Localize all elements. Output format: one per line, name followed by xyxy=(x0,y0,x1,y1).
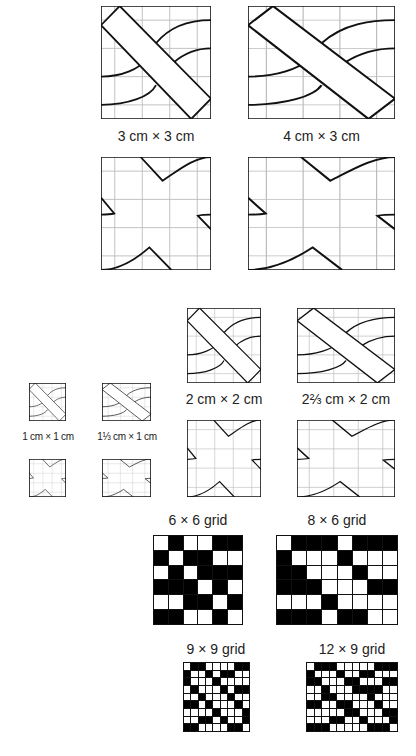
weave-grid-8x6 xyxy=(276,535,398,625)
grid-cell xyxy=(322,694,329,701)
grid-cell xyxy=(213,580,227,594)
grid-cell xyxy=(315,701,322,708)
grid-cell xyxy=(184,678,190,685)
strap-tile-2-2-3x2 xyxy=(297,308,395,383)
strap-pattern-icon xyxy=(248,6,395,119)
grid-cell xyxy=(184,551,198,565)
grid-cell xyxy=(307,566,321,580)
cross-tile-2-2-3x2 xyxy=(297,420,395,497)
grid-cell xyxy=(213,724,219,731)
grid-cell xyxy=(338,551,352,565)
grid-cell xyxy=(368,717,375,724)
grid-cell xyxy=(307,678,314,685)
grid-cell xyxy=(353,551,367,565)
grid-cell xyxy=(330,701,337,708)
label-grid-12x9: 12 × 9 grid xyxy=(302,641,402,657)
grid-cell xyxy=(292,610,306,624)
grid-cell xyxy=(228,551,242,565)
grid-cell xyxy=(292,566,306,580)
grid-cell xyxy=(322,686,329,693)
grid-cell xyxy=(383,694,390,701)
grid-cell xyxy=(169,595,183,609)
weave-grid-12x9 xyxy=(306,662,398,732)
grid-cell xyxy=(292,595,306,609)
grid-cell xyxy=(338,580,352,594)
grid-cell xyxy=(360,678,367,685)
grid-cell xyxy=(383,663,390,670)
grid-cell xyxy=(383,671,390,678)
grid-cell xyxy=(322,663,329,670)
grid-cell xyxy=(191,663,197,670)
strap-tile-2x2 xyxy=(187,308,261,383)
grid-cell xyxy=(235,678,241,685)
grid-cell xyxy=(198,566,212,580)
grid-cell xyxy=(383,551,397,565)
grid-cell xyxy=(337,709,344,716)
grid-cell xyxy=(322,701,329,708)
grid-cell xyxy=(228,678,234,685)
grid-cell xyxy=(169,610,183,624)
grid-cell xyxy=(191,686,197,693)
grid-cell xyxy=(184,709,190,716)
grid-cell xyxy=(375,678,382,685)
cross-tile-1-1-3x1 xyxy=(102,459,151,497)
grid-cell xyxy=(228,580,242,594)
grid-cell xyxy=(221,686,227,693)
grid-cell xyxy=(390,671,397,678)
label-grid-9x9: 9 × 9 grid xyxy=(175,641,257,657)
grid-cell xyxy=(221,717,227,724)
grid-cell xyxy=(213,536,227,550)
grid-cell xyxy=(368,536,382,550)
grid-cell xyxy=(213,678,219,685)
grid-cell xyxy=(353,610,367,624)
grid-cell xyxy=(206,686,212,693)
strap-tile-4x3 xyxy=(248,6,395,119)
strap-pattern-icon xyxy=(297,308,395,383)
label-grid-6x6: 6 × 6 grid xyxy=(153,512,243,528)
grid-cell xyxy=(353,717,360,724)
grid-cell xyxy=(199,671,205,678)
grid-cell xyxy=(322,580,336,594)
grid-cell xyxy=(243,678,249,685)
grid-cell xyxy=(228,566,242,580)
grid-cell xyxy=(368,694,375,701)
label-grid-8x6: 8 × 6 grid xyxy=(276,512,398,528)
grid-cell xyxy=(184,580,198,594)
grid-cell xyxy=(228,709,234,716)
grid-cell xyxy=(277,536,291,550)
grid-cell xyxy=(307,671,314,678)
cross-pattern-icon xyxy=(297,420,395,497)
grid-cell xyxy=(322,536,336,550)
grid-cell xyxy=(383,566,397,580)
grid-cell xyxy=(191,724,197,731)
grid-cell xyxy=(330,663,337,670)
grid-cell xyxy=(213,709,219,716)
cross-pattern-icon xyxy=(101,157,211,270)
grid-cell xyxy=(307,724,314,731)
grid-cell xyxy=(353,701,360,708)
strap-tile-1-1-3x1 xyxy=(102,383,151,421)
grid-cell xyxy=(353,580,367,594)
grid-cell xyxy=(235,709,241,716)
grid-cell xyxy=(213,566,227,580)
grid-cell xyxy=(338,595,352,609)
grid-cell xyxy=(360,663,367,670)
grid-cell xyxy=(330,671,337,678)
grid-cell xyxy=(235,724,241,731)
grid-cell xyxy=(390,663,397,670)
grid-cell xyxy=(307,595,321,609)
grid-cell xyxy=(345,686,352,693)
grid-cell xyxy=(243,701,249,708)
grid-cell xyxy=(338,536,352,550)
grid-cell xyxy=(368,580,382,594)
grid-cell xyxy=(375,717,382,724)
grid-cell xyxy=(169,536,183,550)
grid-cell xyxy=(315,724,322,731)
grid-cell xyxy=(353,724,360,731)
grid-cell xyxy=(375,724,382,731)
grid-cell xyxy=(199,701,205,708)
grid-cell xyxy=(383,686,390,693)
grid-cell xyxy=(368,701,375,708)
grid-cell xyxy=(184,686,190,693)
label-2x2: 2 cm × 2 cm xyxy=(180,391,268,407)
